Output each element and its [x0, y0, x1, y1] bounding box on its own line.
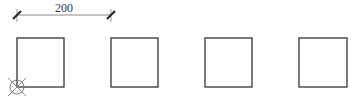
- square-3: [205, 38, 252, 87]
- drawing-canvas: [0, 0, 355, 108]
- square-2: [111, 38, 158, 87]
- square-4: [299, 38, 347, 87]
- dimension-label: 200: [34, 1, 94, 16]
